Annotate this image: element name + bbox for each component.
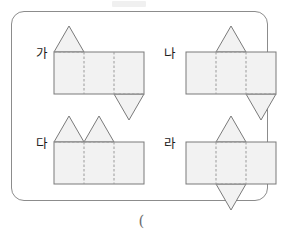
triangle-up-panel-0 — [54, 26, 84, 52]
triangle-up-panel-1 — [216, 26, 246, 52]
net-diagram-na — [160, 26, 283, 121]
net-body-rect — [186, 52, 276, 94]
net-diagram-ga — [28, 26, 156, 121]
scan-artifact — [112, 1, 146, 7]
triangle-up-panel-0 — [54, 116, 84, 142]
net-body-rect — [54, 142, 144, 184]
net-option-ga[interactable]: 가 — [28, 26, 156, 121]
triangle-up-panel-1 — [216, 116, 246, 142]
net-body-rect — [54, 52, 144, 94]
net-option-da[interactable]: 다 — [28, 116, 156, 211]
answer-parenthesis: ( — [139, 212, 145, 230]
net-option-na[interactable]: 나 — [160, 26, 283, 121]
net-body-rect — [186, 142, 276, 184]
net-diagram-ra — [160, 116, 283, 211]
answer-row: ( — [0, 205, 283, 237]
triangle-up-panel-1 — [84, 116, 114, 142]
net-option-ra[interactable]: 라 — [160, 116, 283, 211]
question-panel: 가 나 다 라 — [11, 11, 268, 201]
page-root: 가 나 다 라 ( — [0, 0, 283, 242]
net-diagram-da — [28, 116, 156, 211]
